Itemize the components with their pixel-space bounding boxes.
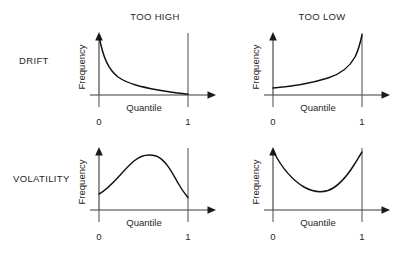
y-axis-title: Frequency bbox=[76, 44, 87, 89]
x-tick-label-1: 1 bbox=[185, 231, 190, 242]
x-axis-arrowhead-icon bbox=[208, 91, 217, 99]
y-axis-title: Frequency bbox=[250, 44, 261, 89]
x-tick-label-1: 1 bbox=[185, 116, 190, 127]
chart-drift-too-high: Frequency Quantile 0 1 bbox=[72, 27, 222, 132]
quantile-diagnostics-figure: TOO HIGH TOO LOW DRIFT VOLATILITY Freque… bbox=[0, 0, 403, 253]
x-axis-arrowhead-icon bbox=[208, 206, 217, 214]
row-label-volatility: VOLATILITY bbox=[13, 173, 70, 184]
chart-drift-too-low: Frequency Quantile 0 1 bbox=[246, 27, 396, 132]
curve-volatility-too-high bbox=[99, 155, 188, 197]
chart-volatility-too-low: Frequency Quantile 0 1 bbox=[246, 142, 396, 247]
curve-drift-too-low bbox=[273, 35, 362, 88]
row-label-drift: DRIFT bbox=[19, 55, 49, 66]
y-axis-arrowhead-icon bbox=[95, 147, 103, 156]
curve-drift-too-high bbox=[99, 36, 188, 94]
y-axis-title: Frequency bbox=[76, 159, 87, 204]
x-axis-arrowhead-icon bbox=[382, 91, 391, 99]
y-axis-title: Frequency bbox=[250, 159, 261, 204]
x-tick-label-0: 0 bbox=[96, 116, 101, 127]
x-axis-title: Quantile bbox=[300, 102, 335, 113]
x-axis-title: Quantile bbox=[126, 217, 161, 228]
chart-volatility-too-high: Frequency Quantile 0 1 bbox=[72, 142, 222, 247]
curve-volatility-too-low bbox=[273, 151, 362, 192]
column-header-too-low: TOO LOW bbox=[298, 11, 345, 22]
x-tick-label-1: 1 bbox=[359, 116, 364, 127]
column-header-too-high: TOO HIGH bbox=[130, 11, 180, 22]
x-axis-title: Quantile bbox=[126, 102, 161, 113]
x-tick-label-0: 0 bbox=[270, 116, 275, 127]
x-tick-label-0: 0 bbox=[270, 231, 275, 242]
x-axis-title: Quantile bbox=[300, 217, 335, 228]
x-axis-arrowhead-icon bbox=[382, 206, 391, 214]
y-axis-arrowhead-icon bbox=[269, 32, 277, 41]
x-tick-label-0: 0 bbox=[96, 231, 101, 242]
x-tick-label-1: 1 bbox=[359, 231, 364, 242]
